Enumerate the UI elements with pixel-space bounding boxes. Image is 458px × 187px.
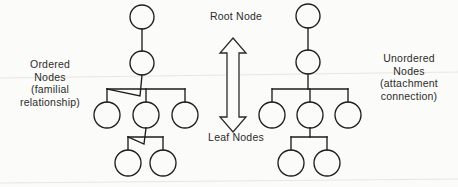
ordered-tree-node-leaf: [172, 102, 198, 128]
ordered-tree-edge-slant: [107, 75, 142, 96]
double-headed-arrow-shape: [220, 38, 246, 132]
label-root-node: Root Node: [186, 10, 286, 23]
unordered-tree-node-leaf: [335, 102, 361, 128]
ordered-tree-edge-slant: [128, 128, 146, 144]
unordered-tree-node-leaf: [278, 150, 304, 176]
unordered-tree-node-root: [296, 4, 320, 28]
ordered-tree-node-internal: [133, 102, 159, 128]
diagram-canvas: Ordered Nodes (familial relationship) Un…: [0, 0, 458, 187]
ordered-tree-node-internal: [130, 51, 154, 75]
label-leaf-nodes: Leaf Nodes: [186, 131, 286, 144]
unordered-tree-node-leaf: [259, 102, 285, 128]
unordered-tree-node-leaf: [314, 150, 340, 176]
label-ordered-nodes: Ordered Nodes (familial relationship): [2, 58, 98, 108]
ordered-tree-node-root: [130, 5, 154, 29]
ordered-tree-node-leaf: [115, 150, 141, 176]
double-headed-vertical-arrow-icon: [220, 38, 246, 132]
unordered-tree-node-internal: [296, 50, 320, 74]
ordered-tree-node-leaf: [150, 150, 176, 176]
label-unordered-nodes: Unordered Nodes (attachment connection): [362, 52, 456, 102]
unordered-tree-node-internal: [297, 102, 323, 128]
